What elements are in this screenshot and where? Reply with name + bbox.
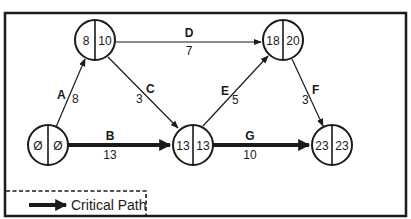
diagram-frame <box>5 13 406 216</box>
activity-B-label: B <box>106 129 115 143</box>
node-2-late-time: 10 <box>98 34 112 48</box>
node-3: 13 13 <box>173 125 213 165</box>
activity-F-label: F <box>312 83 319 97</box>
activity-G: G 10 <box>213 129 309 162</box>
activity-A-duration: 8 <box>72 92 79 106</box>
node-4-early-time: 18 <box>266 34 280 48</box>
activity-C-label: C <box>146 82 155 96</box>
node-5-late-time: 23 <box>335 139 349 153</box>
legend-label: Critical Path <box>71 197 146 213</box>
node-4: 18 20 <box>263 20 303 60</box>
cpm-network-diagram: A 8 B 13 C 3 D 7 E 5 F 3 G 10 Ø Ø <box>0 0 411 219</box>
activity-E-duration: 5 <box>232 93 239 107</box>
node-1-early-time: Ø <box>33 139 42 153</box>
activity-A: A 8 <box>56 59 85 127</box>
node-4-late-time: 20 <box>286 34 300 48</box>
activity-D-label: D <box>185 26 194 40</box>
arrow-C <box>108 57 178 128</box>
activity-A-label: A <box>57 88 66 102</box>
activity-F: F 3 <box>292 59 323 126</box>
node-5: 23 23 <box>312 125 352 165</box>
activity-B: B 13 <box>68 129 170 162</box>
node-1: Ø Ø <box>28 125 68 165</box>
activity-C-duration: 3 <box>136 92 143 106</box>
activity-D: D 7 <box>116 26 261 58</box>
node-2: 8 10 <box>75 20 115 60</box>
legend: Critical Path <box>6 191 146 216</box>
node-1-late-time: Ø <box>53 139 62 153</box>
activity-E: E 5 <box>203 56 268 126</box>
activity-F-duration: 3 <box>302 93 309 107</box>
activity-D-duration: 7 <box>186 44 193 58</box>
activity-C: C 3 <box>108 57 178 128</box>
activity-G-label: G <box>245 129 254 143</box>
activity-E-label: E <box>221 84 229 98</box>
activity-G-duration: 10 <box>243 148 257 162</box>
node-3-late-time: 13 <box>196 139 210 153</box>
arrow-E <box>203 56 268 126</box>
node-5-early-time: 23 <box>315 139 329 153</box>
node-3-early-time: 13 <box>176 139 190 153</box>
activity-B-duration: 13 <box>103 148 117 162</box>
node-2-early-time: 8 <box>83 34 90 48</box>
